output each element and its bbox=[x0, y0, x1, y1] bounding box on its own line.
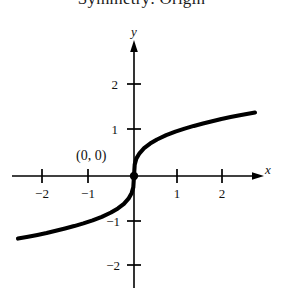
origin-point-label: (0, 0) bbox=[76, 148, 107, 164]
y-tick-label-pos2: 2 bbox=[112, 77, 119, 92]
y-tick-label-neg1: −1 bbox=[106, 214, 120, 229]
x-axis-label: x bbox=[264, 162, 271, 177]
x-tick-label-pos2: 2 bbox=[219, 186, 226, 201]
cube-root-graph: −2 −1 1 2 2 1 −1 −2 x y (0, 0) bbox=[0, 0, 283, 292]
y-tick-label-pos1: 1 bbox=[112, 122, 119, 137]
figure-panel: Symmetry: Origin −2 −1 1 2 bbox=[0, 0, 283, 292]
y-axis-label: y bbox=[129, 24, 137, 39]
y-tick-label-neg2: −2 bbox=[106, 258, 120, 273]
x-tick-label-neg2: −2 bbox=[35, 186, 49, 201]
x-tick-label-pos1: 1 bbox=[174, 186, 181, 201]
x-tick-label-neg1: −1 bbox=[81, 186, 95, 201]
